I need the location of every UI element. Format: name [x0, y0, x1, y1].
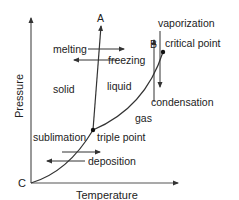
melting-label: melting — [53, 43, 87, 55]
freezing-label: freezing — [108, 54, 146, 66]
sublimation-label: sublimation — [33, 131, 86, 143]
critical-point-dot — [161, 50, 165, 54]
point-a-label: A — [97, 12, 104, 24]
triple-point-dot — [91, 128, 95, 132]
y-axis-label: Pressure — [13, 74, 25, 118]
region-solid-label: solid — [53, 83, 75, 95]
region-liquid-label: liquid — [107, 80, 132, 92]
deposition-label: deposition — [88, 155, 136, 167]
phase-diagram: Pressure Temperature C A B critical poin… — [0, 0, 239, 200]
solid-liquid-line — [93, 26, 101, 130]
critical-point-label: critical point — [165, 37, 221, 49]
triple-point-label: triple point — [97, 131, 146, 143]
condensation-label: condensation — [151, 96, 214, 108]
point-b-label: B — [150, 38, 157, 50]
origin-label-c: C — [18, 177, 26, 189]
x-axis-label: Temperature — [76, 189, 138, 200]
region-gas-label: gas — [135, 112, 152, 124]
vaporization-label: vaporization — [158, 17, 215, 29]
